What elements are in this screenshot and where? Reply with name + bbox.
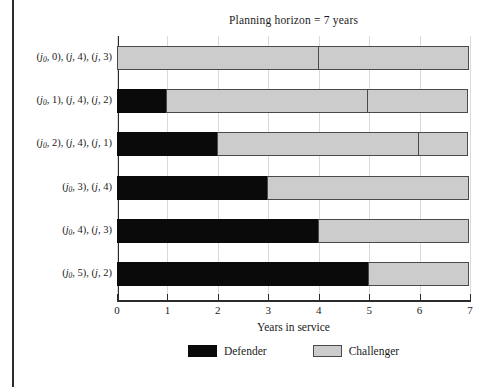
row-label: (j0, 4), (j, 3): [0, 225, 112, 236]
bar-segment-defender: [117, 262, 369, 286]
gridline: [470, 36, 471, 296]
legend-swatch-defender: [188, 345, 217, 357]
row-label: (j0, 3), (j, 4): [0, 182, 112, 193]
bar-row: [117, 219, 470, 243]
x-tick-label: 4: [307, 304, 331, 316]
x-tick-label: 1: [155, 304, 179, 316]
row-label: (j0, 5), (j, 2): [0, 268, 112, 279]
legend-swatch-challenger: [313, 345, 342, 357]
bar-track: [117, 176, 470, 200]
bar-track: [117, 46, 470, 70]
row-labels: (j0, 0), (j, 4), (j, 3)(j0, 1), (j, 4), …: [0, 36, 112, 296]
x-axis-label: Years in service: [117, 321, 470, 333]
bar-segment-challenger: [367, 89, 468, 113]
x-tick-mark: [369, 294, 370, 301]
gridline: [218, 36, 219, 296]
bar-track: [117, 262, 470, 286]
bar-track: [117, 89, 470, 113]
bar-row: [117, 262, 470, 286]
gridline: [268, 36, 269, 296]
x-tick-mark: [167, 294, 168, 301]
x-tick-mark: [268, 294, 269, 301]
legend-item-defender: Defender: [188, 345, 267, 357]
chart-legend: DefenderChallenger: [117, 345, 470, 357]
gridline: [117, 36, 118, 296]
gridline: [319, 36, 320, 296]
x-tick-label: 0: [105, 304, 129, 316]
bar-row: [117, 176, 470, 200]
bar-segment-defender: [117, 219, 319, 243]
x-tick-mark: [319, 294, 320, 301]
x-tick-mark: [218, 294, 219, 301]
gridline: [420, 36, 421, 296]
plot-area: (j0, 0), (j, 4), (j, 3)(j0, 1), (j, 4), …: [117, 36, 470, 296]
legend-label: Defender: [224, 345, 267, 357]
row-label: (j0, 1), (j, 4), (j, 2): [0, 95, 112, 106]
bar-segment-defender: [117, 89, 167, 113]
bar-segment-challenger: [418, 132, 468, 156]
bar-segment-challenger: [318, 219, 469, 243]
x-tick-label: 2: [206, 304, 230, 316]
x-tick-label: 3: [256, 304, 280, 316]
bar-row: [117, 89, 470, 113]
bar-row: [117, 132, 470, 156]
row-label: (j0, 2), (j, 4), (j, 1): [0, 138, 112, 149]
x-tick-mark: [117, 294, 118, 301]
bar-segment-defender: [117, 132, 218, 156]
chart-title: Planning horizon = 7 years: [117, 14, 470, 26]
gridline: [167, 36, 168, 296]
bar-segment-challenger: [117, 46, 319, 70]
bar-segment-defender: [117, 176, 268, 200]
row-label: (j0, 0), (j, 4), (j, 3): [0, 52, 112, 63]
gridlines: [117, 36, 470, 296]
bar-segment-challenger: [368, 262, 469, 286]
bar-row: [117, 46, 470, 70]
bar-track: [117, 219, 470, 243]
x-axis-tick-labels: 01234567: [117, 304, 471, 320]
bar-segment-challenger: [166, 89, 368, 113]
x-tick-mark: [420, 294, 421, 301]
bar-chart-figure: Planning horizon = 7 years (j0, 0), (j, …: [0, 0, 498, 387]
x-axis-line: [117, 300, 471, 302]
legend-label: Challenger: [349, 345, 399, 357]
x-tick-label: 5: [357, 304, 381, 316]
x-tick-mark: [470, 294, 471, 301]
gridline: [369, 36, 370, 296]
x-tick-label: 7: [458, 304, 482, 316]
bar-segment-challenger: [217, 132, 419, 156]
x-tick-label: 6: [408, 304, 432, 316]
bar-track: [117, 132, 470, 156]
bar-segment-challenger: [318, 46, 469, 70]
bar-segment-challenger: [267, 176, 469, 200]
legend-item-challenger: Challenger: [313, 345, 399, 357]
